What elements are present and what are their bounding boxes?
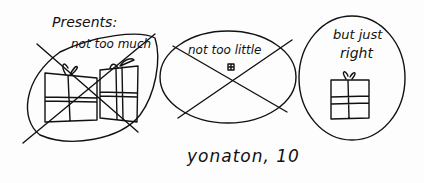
gift-left: [45, 73, 97, 122]
panel3-caption-line1: but just: [333, 27, 382, 42]
panel2-caption: not too little: [188, 43, 261, 57]
panel1-caption: not too much: [71, 37, 151, 51]
drawing: Presents: not too much not too little bu…: [0, 0, 424, 183]
signature: yonaton, 10: [187, 146, 300, 166]
tiny-gift: [228, 64, 234, 70]
gift-small: [331, 80, 369, 119]
bow-small: [343, 72, 355, 79]
title-text: Presents:: [52, 14, 117, 30]
panel3-caption-line2: right: [340, 45, 373, 61]
